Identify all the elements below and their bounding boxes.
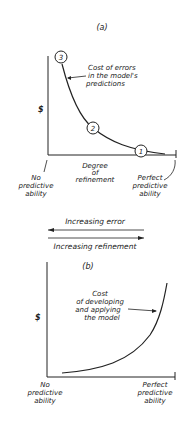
svg-text:ability: ability bbox=[139, 190, 161, 198]
development-curve-pointer bbox=[128, 309, 156, 311]
svg-text:Perfect: Perfect bbox=[143, 381, 168, 389]
svg-text:of developing: of developing bbox=[76, 298, 124, 306]
svg-text:3: 3 bbox=[59, 54, 63, 62]
panel-a-y-label: $ bbox=[38, 105, 44, 114]
svg-text:predictions: predictions bbox=[85, 80, 125, 88]
svg-text:the model: the model bbox=[84, 314, 120, 322]
development-cost-curve bbox=[62, 283, 167, 373]
svg-text:predictive: predictive bbox=[136, 389, 172, 397]
svg-text:refinement: refinement bbox=[76, 176, 115, 184]
svg-text:ability: ability bbox=[34, 397, 56, 405]
svg-text:and applying: and applying bbox=[75, 306, 121, 314]
increasing-refinement-label: Increasing refinement bbox=[54, 242, 138, 251]
svg-text:predictive: predictive bbox=[131, 182, 167, 190]
svg-text:Cost: Cost bbox=[92, 290, 108, 298]
svg-text:predictive: predictive bbox=[26, 389, 62, 397]
svg-text:ability: ability bbox=[25, 190, 47, 198]
svg-text:predictive: predictive bbox=[17, 182, 53, 190]
svg-text:Cost of errors: Cost of errors bbox=[88, 64, 136, 72]
svg-text:2: 2 bbox=[91, 125, 96, 133]
increasing-error-label: Increasing error bbox=[65, 217, 126, 226]
panel-a-label: (a) bbox=[96, 23, 107, 32]
svg-text:No: No bbox=[31, 174, 41, 182]
svg-text:Perfect: Perfect bbox=[138, 174, 163, 182]
svg-text:1: 1 bbox=[139, 148, 143, 156]
panel-b-label: (b) bbox=[82, 262, 93, 271]
diagram: (a) $ 3 2 1 Cost of errors in the model'… bbox=[0, 0, 185, 438]
svg-text:No: No bbox=[40, 381, 50, 389]
panel-b-y-label: $ bbox=[35, 313, 41, 322]
svg-text:ability: ability bbox=[144, 397, 166, 405]
svg-text:in the model's: in the model's bbox=[88, 72, 138, 80]
